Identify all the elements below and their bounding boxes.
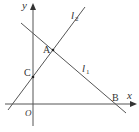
- point-c-marker: [32, 76, 35, 79]
- point-a-marker: [52, 49, 55, 52]
- line-l2: [8, 7, 85, 110]
- point-c-label: C: [24, 67, 31, 78]
- x-axis-label: x: [126, 89, 132, 101]
- svg-text:l: l: [82, 62, 85, 74]
- point-a-label: A: [43, 44, 51, 55]
- diagram-canvas: y x O l 2 l 1 A B C: [0, 0, 139, 132]
- line-l1-label: l 1: [82, 62, 90, 76]
- point-b-label: B: [112, 92, 119, 103]
- svg-text:l: l: [71, 9, 74, 21]
- y-axis-label: y: [21, 0, 27, 11]
- svg-text:1: 1: [86, 68, 90, 76]
- line-l1: [21, 23, 126, 113]
- x-axis-arrow-icon: [130, 101, 137, 107]
- line-l2-label: l 2: [71, 9, 79, 23]
- y-axis-arrow-icon: [30, 3, 36, 10]
- origin-label: O: [25, 108, 32, 118]
- svg-text:2: 2: [75, 15, 79, 23]
